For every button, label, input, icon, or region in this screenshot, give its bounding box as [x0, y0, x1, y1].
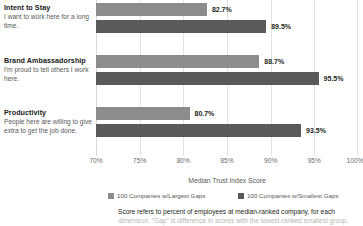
category-description: I want to work here for a long time.: [4, 13, 96, 30]
legend-label: 100 Companies w/Largest Gaps: [117, 192, 205, 199]
category-block-productivity: Productivity People here are willing to …: [4, 108, 96, 135]
category-title: Brand Ambassadorship: [4, 56, 96, 65]
plot-area: 82.7% 89.5% 88.7% 95.5% 80.7% 93.5%: [96, 0, 358, 156]
x-tick-95: 95%: [308, 157, 321, 164]
bar-value-productivity-largest-gaps: 80.7%: [195, 107, 215, 120]
category-block-intent-to-stay: Intent to Stay I want to work here for a…: [4, 3, 96, 30]
x-tick-100: 100%: [347, 157, 363, 164]
bar-brand-ambassadorship-smallest-gaps: [96, 72, 319, 85]
category-block-brand-ambassadorship: Brand Ambassadorship I'm proud to tell o…: [4, 56, 96, 83]
bar-productivity-smallest-gaps: [96, 124, 301, 137]
bar-brand-ambassadorship-largest-gaps: [96, 55, 259, 68]
x-tick-90: 90%: [264, 157, 277, 164]
bar-intent-to-stay-smallest-gaps: [96, 20, 266, 33]
chart-legend: 100 Companies w/Largest Gaps 100 Compani…: [96, 192, 358, 202]
x-tick-70: 70%: [89, 157, 102, 164]
bar-value-intent-to-stay-largest-gaps: 82.7%: [212, 3, 232, 16]
x-axis-tick-labels: 70% 75% 80% 85% 90% 95% 100%: [96, 157, 358, 169]
bar-value-intent-to-stay-smallest-gaps: 89.5%: [271, 20, 291, 33]
x-axis-title: Median Trust Index Score: [96, 177, 358, 184]
legend-label: 100 Companies w/Smallest Gaps: [247, 192, 338, 199]
bar-intent-to-stay-largest-gaps: [96, 3, 207, 16]
legend-swatch-icon: [238, 193, 244, 199]
x-tick-85: 85%: [220, 157, 233, 164]
category-description: I'm proud to tell others I work here.: [4, 66, 96, 83]
chart-footnote: Score refers to percent of employees at …: [118, 208, 358, 225]
bar-productivity-largest-gaps: [96, 107, 190, 120]
legend-item-smallest-gaps[interactable]: 100 Companies w/Smallest Gaps: [238, 192, 338, 199]
footnote-line-2: dimension. "Gap" is difference in scores…: [118, 217, 358, 226]
x-tick-75: 75%: [133, 157, 146, 164]
category-title: Intent to Stay: [4, 3, 96, 12]
category-title: Productivity: [4, 108, 96, 117]
gridline-100: [357, 0, 358, 156]
bar-value-brand-ambassadorship-smallest-gaps: 95.5%: [324, 72, 344, 85]
category-description: People here are willing to give extra to…: [4, 118, 96, 135]
bar-value-brand-ambassadorship-largest-gaps: 88.7%: [264, 55, 284, 68]
x-tick-80: 80%: [177, 157, 190, 164]
legend-swatch-icon: [108, 193, 114, 199]
bar-value-productivity-smallest-gaps: 93.5%: [306, 124, 326, 137]
footnote-line-1: Score refers to percent of employees at …: [118, 208, 358, 217]
legend-item-largest-gaps[interactable]: 100 Companies w/Largest Gaps: [108, 192, 205, 199]
